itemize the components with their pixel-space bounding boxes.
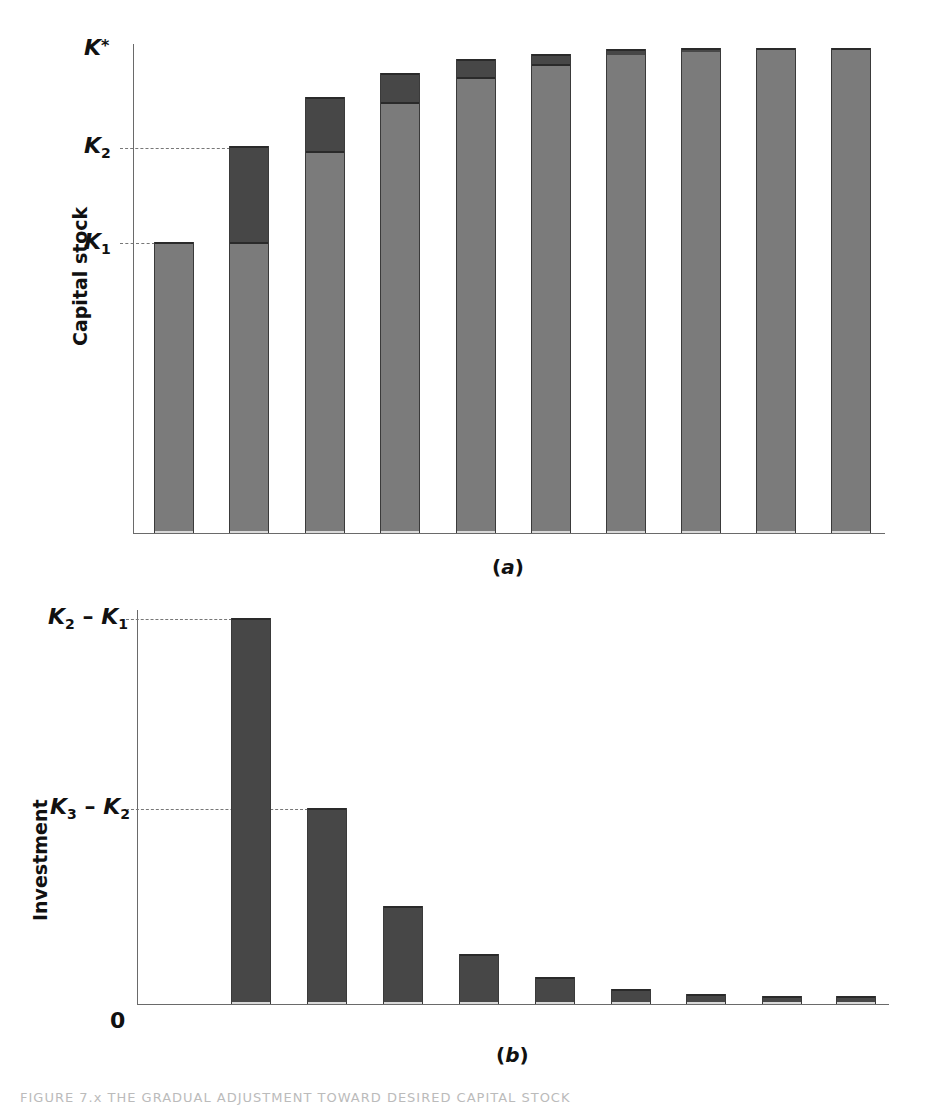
bar-foot: [460, 1002, 498, 1004]
capital-bar-6: [531, 54, 571, 533]
bar-foot: [536, 1002, 574, 1004]
reference-line-k2: [120, 148, 230, 149]
x-axis-b: [137, 1004, 889, 1005]
capital-bar-3-existing: [306, 153, 344, 533]
capital-bar-4-existing: [381, 104, 419, 533]
k2-main: K: [84, 133, 101, 158]
tick-k: K: [101, 604, 118, 629]
investment-bar-8: [686, 994, 726, 1004]
capital-bar-2-investment: [230, 146, 268, 243]
bar-foot: [230, 531, 268, 533]
x-axis-a: [133, 533, 885, 534]
capital-bar-5: [456, 59, 496, 533]
investment-bar-6: [535, 977, 575, 1004]
investment-bar-7: [611, 989, 651, 1004]
k2-sub: 2: [101, 145, 111, 161]
k1-sub: 1: [101, 241, 111, 257]
capital-bar-1: [154, 242, 194, 533]
tick-sub: 3: [67, 806, 77, 822]
bar-foot: [155, 531, 193, 533]
panel-label-a: (a): [492, 555, 524, 579]
bar-foot: [763, 1002, 801, 1004]
tick-k: K: [50, 794, 67, 819]
bar-foot: [457, 531, 495, 533]
investment-bar-9: [762, 996, 802, 1004]
kstar-star: *: [101, 36, 109, 55]
capital-bar-2: [229, 146, 269, 533]
y-tick-label-k2-minus-k1: K2 – K1: [48, 606, 128, 631]
capital-bar-4-investment: [381, 73, 419, 103]
capital-bar-5-investment: [457, 59, 495, 78]
investment-bar-10: [836, 996, 876, 1004]
investment-bar-2: [231, 618, 271, 1004]
panel-letter: a: [501, 555, 515, 579]
panel-b: Investment K2 – K1 K3 – K2 0: [0, 580, 927, 1080]
figure-caption: FIGURE 7.x THE GRADUAL ADJUSTMENT TOWARD…: [20, 1090, 570, 1105]
tick-minus: –: [77, 794, 103, 819]
bar-foot: [832, 531, 870, 533]
panel-letter: b: [505, 1043, 519, 1067]
bar-foot: [308, 1002, 346, 1004]
y-tick-label-zero: 0: [110, 1010, 125, 1032]
capital-bar-1-existing: [155, 242, 193, 533]
paren-close: ): [515, 555, 524, 579]
capital-bar-5-existing: [457, 79, 495, 533]
capital-bar-8: [681, 48, 721, 533]
investment-fill: [232, 618, 270, 1004]
investment-fill: [384, 906, 422, 1004]
paren-open: (: [492, 555, 501, 579]
capital-bar-6-existing: [532, 66, 570, 533]
capital-bar-9: [756, 48, 796, 533]
bar-foot: [687, 1002, 725, 1004]
bar-foot: [532, 531, 570, 533]
y-axis-title-investment: Investment: [29, 801, 51, 921]
capital-bar-10: [831, 48, 871, 533]
capital-bar-9-existing: [757, 48, 795, 533]
panel-a: Capital stock K* K2 K1: [0, 0, 927, 580]
panel-label-b: (b): [496, 1043, 529, 1067]
bar-foot: [232, 1002, 270, 1004]
investment-bar-4: [383, 906, 423, 1004]
reference-line-k2-minus-k1: [126, 619, 232, 620]
bar-foot: [682, 531, 720, 533]
investment-bar-5: [459, 954, 499, 1004]
capital-bar-7: [606, 49, 646, 533]
bar-foot: [306, 531, 344, 533]
bar-foot: [757, 531, 795, 533]
reference-line-k1: [120, 243, 155, 244]
capital-bar-3-investment: [306, 97, 344, 152]
bar-foot: [384, 1002, 422, 1004]
bar-foot: [381, 531, 419, 533]
investment-fill: [460, 954, 498, 1004]
capital-bar-10-existing: [832, 48, 870, 533]
y-tick-label-kstar: K*: [84, 37, 109, 59]
tick-minus: –: [75, 604, 101, 629]
k1-main: K: [84, 229, 101, 254]
capital-bar-2-existing: [230, 244, 268, 533]
capital-bar-4: [380, 73, 420, 533]
paren-open: (: [496, 1043, 505, 1067]
tick-sub: 2: [65, 616, 75, 632]
y-axis-b: [137, 610, 138, 1005]
kstar-main: K: [84, 35, 101, 60]
tick-k: K: [103, 794, 120, 819]
reference-line-k3-minus-k2: [126, 809, 308, 810]
investment-bar-3: [307, 808, 347, 1004]
bar-foot: [607, 531, 645, 533]
tick-k: K: [48, 604, 65, 629]
paren-close: ): [519, 1043, 528, 1067]
y-tick-label-k2: K2: [84, 135, 111, 160]
bar-foot: [837, 1002, 875, 1004]
investment-fill: [308, 808, 346, 1004]
capital-bar-8-existing: [682, 52, 720, 533]
investment-fill: [536, 977, 574, 1004]
capital-bar-3: [305, 97, 345, 533]
bar-foot: [612, 1002, 650, 1004]
capital-bar-7-existing: [607, 55, 645, 533]
y-tick-label-k3-minus-k2: K3 – K2: [50, 796, 130, 821]
y-tick-label-k1: K1: [84, 231, 111, 256]
y-axis-a: [133, 44, 134, 534]
